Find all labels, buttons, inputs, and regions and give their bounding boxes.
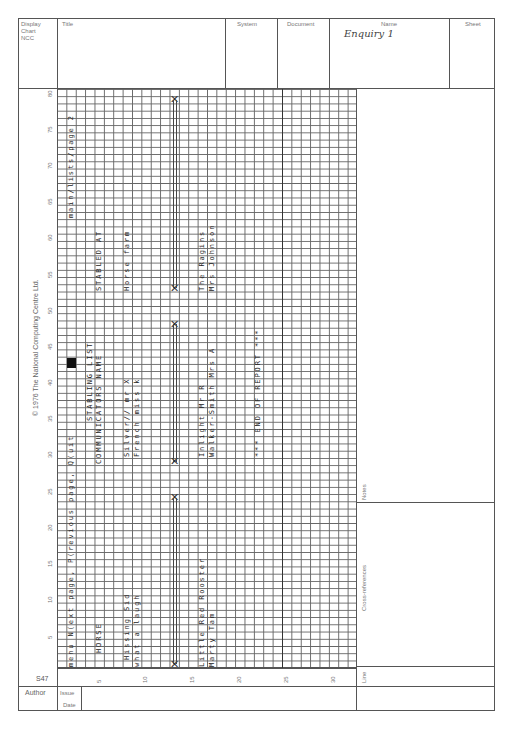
header-frame	[18, 18, 495, 89]
row-tick: 70	[47, 162, 53, 169]
row-tick: 10	[47, 597, 53, 604]
screen-text-main-lists: main/lists/page 2	[67, 114, 75, 218]
screen-text-mrs-johnson: Mrs Johnson	[208, 223, 216, 290]
cross-marker-icon: ✕	[169, 283, 179, 294]
title-label: Title	[62, 21, 73, 28]
header-divider	[449, 18, 450, 89]
row-tick: 25	[47, 488, 53, 495]
date-label: Date	[63, 702, 76, 708]
notes-area[interactable]	[358, 90, 493, 501]
row-tick: 30	[47, 452, 53, 459]
field-extent-line	[176, 498, 177, 664]
cross-marker-icon: ✕	[169, 456, 179, 467]
field-extent-line	[176, 324, 177, 462]
header-divider	[225, 18, 226, 89]
form-id-line: Chart	[21, 28, 41, 35]
screen-text-what-a-laugh: what a laugh	[133, 594, 141, 667]
screen-text-silver: Silver// mr X	[123, 378, 131, 458]
form-id-line: Display	[21, 21, 41, 28]
crossref-divider	[357, 666, 494, 667]
screen-text-stabled-at: STABLED AT	[95, 229, 103, 290]
screen-text-hissing-sid: Hissing Sid	[123, 592, 131, 659]
screen-text-end-of-report: *** END OF REPORT ***	[254, 329, 262, 457]
screen-text-marty-tam: Marty Tam	[208, 612, 216, 667]
screen-text-little-red-rooster: Little Red Rooster	[198, 557, 206, 667]
name-label: Name	[381, 21, 397, 28]
name-value[interactable]: Enquiry 1	[344, 28, 394, 39]
column-tick: 15	[189, 676, 195, 683]
row-tick: 55	[47, 271, 53, 278]
cross-marker-icon: ✕	[169, 492, 179, 503]
field-extent-line	[176, 100, 177, 288]
column-tick: 30	[330, 676, 336, 683]
column-tick: 5	[96, 680, 102, 683]
form-id-line: NCC	[21, 35, 41, 42]
row-tick: 75	[47, 126, 53, 133]
form-code: S47	[36, 675, 48, 682]
header-divider	[277, 18, 278, 89]
field-extent-line	[173, 498, 174, 664]
screen-text-horse-farm: Horse farm	[123, 229, 131, 290]
header-divider	[57, 18, 58, 89]
cross-references-area[interactable]	[358, 503, 493, 665]
row-tick: 5	[47, 636, 53, 639]
screen-text-menu: menu N(ext page, P(revious page, Q(uit	[67, 435, 75, 667]
row-tick: 20	[47, 524, 53, 531]
author-field[interactable]	[19, 697, 56, 710]
row-tick: 35	[47, 416, 53, 423]
document-label: Document	[287, 21, 314, 28]
screen-text-communicators-name: COMMUNICATORS NAME	[95, 354, 103, 464]
row-tick: 65	[47, 198, 53, 205]
screen-text-the-ragins: The Ragins	[198, 229, 206, 290]
cursor-block	[67, 358, 75, 368]
issue-date-field[interactable]	[82, 687, 493, 710]
line-label: Line	[361, 672, 367, 683]
field-extent-line	[173, 100, 174, 288]
cross-marker-icon: ✕	[169, 319, 179, 330]
row-tick: 15	[47, 560, 53, 567]
column-tick: 20	[236, 676, 242, 683]
grid-section-divider	[282, 89, 283, 668]
copyright: © 1976 The National Computing Centre Ltd…	[32, 279, 39, 416]
row-tick: 40	[47, 379, 53, 386]
screen-text-horse: HORSE	[95, 622, 103, 653]
header-divider	[329, 18, 330, 89]
sheet-label: Sheet	[465, 21, 481, 28]
system-label: System	[237, 21, 257, 28]
screen-text-stabling-list: STABLING LIST	[86, 341, 94, 421]
issue-label: Issue	[60, 690, 74, 696]
row-tick: 80	[47, 90, 53, 97]
row-tick: 60	[47, 235, 53, 242]
author-label: Author	[25, 689, 46, 696]
grid-section-divider	[356, 89, 357, 711]
cross-marker-icon: ✕	[169, 94, 179, 105]
column-tick: 10	[142, 676, 148, 683]
form-id: Display Chart NCC	[21, 21, 41, 42]
field-extent-line	[173, 324, 174, 462]
screen-text-french: French miss k	[133, 378, 141, 458]
screen-text-walker-smith: Walker-Smith Mrs A	[208, 347, 216, 457]
grid-left-rule	[57, 89, 58, 711]
column-tick: 25	[283, 676, 289, 683]
row-tick: 45	[47, 343, 53, 350]
row-tick: 50	[47, 307, 53, 314]
screen-text-inlight: Inlight Mr R	[198, 384, 206, 457]
grid-bottom-rule	[57, 668, 357, 669]
